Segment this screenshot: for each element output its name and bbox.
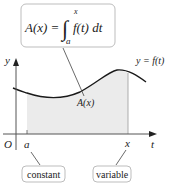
point-a-label: a bbox=[24, 138, 30, 150]
constant-callout-line bbox=[31, 152, 40, 165]
y-axis-label: y bbox=[4, 54, 10, 66]
integrand: f(t) dt bbox=[73, 20, 103, 35]
upper-limit: x bbox=[73, 7, 78, 16]
area-label: A(x) bbox=[76, 97, 95, 109]
formula-pointer-line bbox=[63, 48, 84, 96]
curve-label: y = f(t) bbox=[135, 55, 165, 67]
point-x-label: x bbox=[124, 137, 130, 149]
t-axis-arrow-icon bbox=[149, 131, 157, 137]
formula-lhs: A(x) = bbox=[24, 20, 59, 35]
variable-callout-line bbox=[116, 150, 126, 165]
variable-label: variable bbox=[96, 169, 129, 180]
constant-label: constant bbox=[27, 169, 61, 180]
t-axis-label: t bbox=[151, 138, 155, 150]
lower-limit: a bbox=[66, 36, 71, 46]
integral-area-diagram: y t O a x y = f(t) A(x) A(x) = ∫ x a f(t… bbox=[0, 0, 169, 190]
origin-label: O bbox=[4, 138, 12, 150]
y-axis-arrow-icon bbox=[13, 58, 19, 66]
